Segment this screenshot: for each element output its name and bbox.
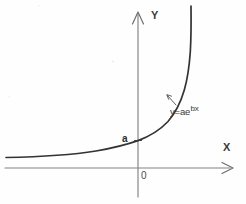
curve-equation-base: y=ae (170, 106, 190, 117)
y-axis-label: Y (151, 10, 159, 21)
curve-equation-exponent: bx (191, 104, 199, 113)
curve-equation-label: y=aebx (170, 105, 199, 117)
x-axis-label: X (223, 142, 231, 153)
origin-label: 0 (141, 171, 147, 181)
equation-leader-line (168, 96, 177, 106)
figure-canvas (0, 0, 246, 204)
exponential-curve (6, 6, 191, 158)
y-intercept-label: a (122, 134, 128, 144)
exponential-curve-figure: Y X 0 a y=aebx (0, 0, 246, 204)
